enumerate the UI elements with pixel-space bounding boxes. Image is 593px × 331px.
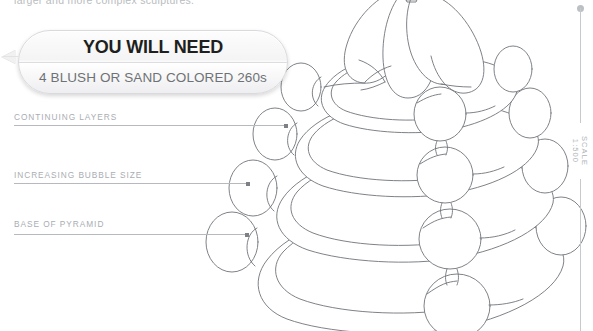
leader-line — [14, 234, 247, 235]
you-will-need-callout: YOU WILL NEED 4 BLUSH OR SAND COLORED 26… — [18, 30, 288, 94]
page-canvas: larger and more complex sculptures. — [0, 0, 593, 331]
leader-line — [14, 183, 248, 184]
leader-endpoint-dot — [284, 124, 288, 128]
balloon-knot-icon — [2, 50, 16, 64]
callout-subtitle: 4 BLUSH OR SAND COLORED 260s — [19, 64, 287, 92]
leader-endpoint-dot — [245, 233, 249, 237]
intro-text: larger and more complex sculptures. — [14, 0, 194, 6]
leader-endpoint-dot — [246, 182, 250, 186]
leader-line — [14, 125, 286, 126]
annotation-label: BASE OF PYRAMID — [14, 219, 104, 229]
annotation-label: INCREASING BUBBLE SIZE — [14, 170, 142, 180]
scale-label: SCALE 1:500 — [569, 123, 591, 179]
scale-marker: SCALE 1:500 — [566, 0, 593, 331]
callout-divider — [19, 62, 287, 63]
callout-title: YOU WILL NEED — [19, 34, 287, 61]
annotation-label: CONTINUING LAYERS — [14, 112, 117, 122]
balloon-knot-line — [3, 56, 19, 57]
